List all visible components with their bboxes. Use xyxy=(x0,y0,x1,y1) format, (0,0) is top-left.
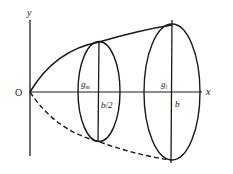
large-ellipse-diameter xyxy=(171,20,172,163)
diagram-canvas: y x O gm b/2 gl b xyxy=(0,0,233,174)
small-ellipse-diameter xyxy=(98,41,99,142)
g-l-label: gl xyxy=(161,79,168,90)
y-axis-label: y xyxy=(26,7,32,18)
half-b-label: b/2 xyxy=(101,100,113,110)
x-axis-label: x xyxy=(205,86,211,97)
origin-label: O xyxy=(15,87,22,98)
upper-parabola-curve xyxy=(30,25,172,92)
b-label: b xyxy=(175,99,180,109)
g-m-label: gm xyxy=(81,79,91,90)
